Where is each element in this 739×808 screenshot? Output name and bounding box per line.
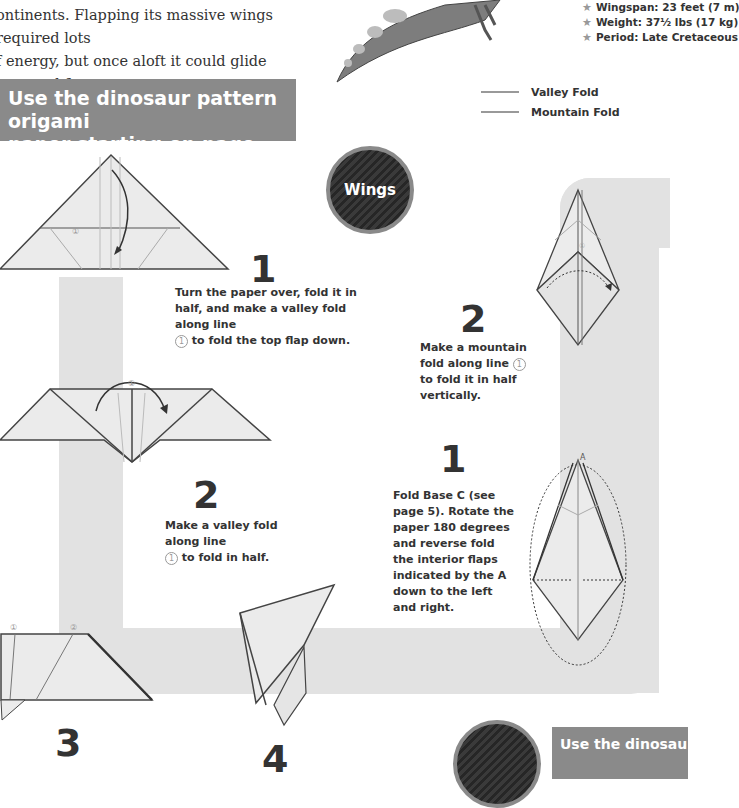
legend-valley-fold: Valley Fold <box>481 82 620 102</box>
intro-line: ontinents. Flapping its massive wings re… <box>0 4 296 50</box>
star-icon: ★ <box>582 30 592 45</box>
step2-diagram: ① <box>0 388 272 468</box>
star-icon: ★ <box>582 15 592 30</box>
step-instruction: Make a valley fold along line 1 to fold … <box>165 518 305 566</box>
section-badge-wings: Wings <box>326 146 414 234</box>
fold-legend: Valley Fold Mountain Fold <box>481 82 620 122</box>
fact-period: ★Period: Late Cretaceous <box>582 30 739 45</box>
circled-number-label: ① <box>72 227 79 236</box>
step-number: 1 <box>440 440 466 478</box>
circled-number-icon: 1 <box>513 358 526 371</box>
circled-number-icon: 1 <box>165 552 178 565</box>
paper-banner: Use the dinosaur pattern origami paper s… <box>0 79 296 141</box>
step-instruction: Make a mountain fold along line 1 to fol… <box>420 340 535 404</box>
circled-number-label: ① <box>579 242 585 250</box>
step-number: 2 <box>193 476 219 514</box>
step4-diagram <box>234 585 339 735</box>
pterosaur-illustration <box>335 0 505 85</box>
step-number: 2 <box>460 300 486 338</box>
fact-wingspan: ★Wingspan: 23 feet (7 m) <box>582 0 739 15</box>
circled-number-label: ① <box>128 379 135 388</box>
right-step2-diagram: ① <box>535 190 621 345</box>
fact-weight: ★Weight: 37½ lbs (17 kg) <box>582 15 739 30</box>
step-number: 4 <box>262 740 288 778</box>
step1-diagram: ① <box>0 152 230 270</box>
valley-fold-line-icon <box>481 91 519 93</box>
step-number: 3 <box>55 724 81 762</box>
step-instruction: Fold Base C (see page 5). Rotate the pap… <box>393 488 518 616</box>
dinosaur-facts: ★Wingspan: 23 feet (7 m) ★Weight: 37½ lb… <box>582 0 739 45</box>
paper-banner-bottom: Use the dinosau <box>552 727 688 779</box>
step-instruction: Turn the paper over, fold it in half, an… <box>175 285 375 349</box>
point-label-a: A <box>580 453 586 462</box>
circled-number-icon: 1 <box>175 335 188 348</box>
section-badge-bottom <box>453 720 541 808</box>
circled-number-label: ① <box>10 623 17 632</box>
mountain-fold-line-icon <box>481 111 519 113</box>
legend-mountain-fold: Mountain Fold <box>481 102 620 122</box>
step-number: 1 <box>250 250 276 288</box>
circled-number-label: ② <box>70 623 77 632</box>
right-step1-diagram: A <box>528 455 628 650</box>
star-icon: ★ <box>582 0 592 15</box>
step3-diagram: ① ② <box>0 620 160 720</box>
